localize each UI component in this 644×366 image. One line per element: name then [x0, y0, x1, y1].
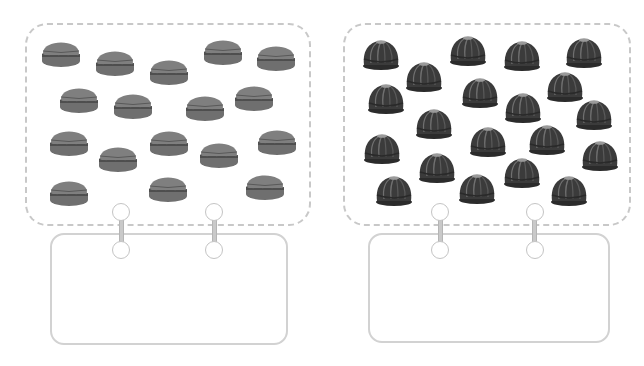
macaron-icon [255, 40, 297, 76]
bundt-cake-icon [448, 33, 488, 71]
macaron-icon [48, 125, 90, 161]
bundt-cake-icon [460, 75, 500, 113]
bundt-cake-icon [564, 35, 604, 73]
bundt-cake-icon [574, 97, 614, 135]
macaron-icon [244, 169, 286, 205]
macaron-icon [148, 54, 190, 90]
macaron-icon [94, 45, 136, 81]
macaron-icon [256, 124, 298, 160]
macaron-icon [40, 36, 82, 72]
macaron-icon [202, 34, 244, 70]
bundt-cake-icon [362, 131, 402, 169]
bundt-cake-icon [417, 150, 457, 188]
bundt-cake-icon [374, 173, 414, 211]
macaron-icon [97, 141, 139, 177]
bundt-cake-icon [502, 155, 542, 193]
binder-ring-icon [431, 241, 449, 259]
bundt-cake-icon [580, 138, 620, 176]
macaron-icon [233, 80, 275, 116]
bundt-cake-icon [457, 171, 497, 209]
binder-ring-icon [205, 241, 223, 259]
macaron-icon [184, 90, 226, 126]
bundt-cake-icon [414, 106, 454, 144]
macaron-icon [198, 137, 240, 173]
bundt-cake-icon [366, 81, 406, 119]
bundt-cake-icon [404, 59, 444, 97]
macaron-icon [147, 171, 189, 207]
macaron-answer-box[interactable] [50, 233, 288, 345]
bundt-cake-icon [361, 37, 401, 75]
bundt-answer-box[interactable] [368, 233, 610, 343]
bundt-cake-icon [549, 173, 589, 211]
binder-ring-icon [526, 203, 544, 221]
bundt-cake-icon [502, 38, 542, 76]
binder-ring-icon [431, 203, 449, 221]
binder-ring-icon [205, 203, 223, 221]
macaron-icon [112, 88, 154, 124]
binder-ring-icon [112, 241, 130, 259]
binder-ring-icon [112, 203, 130, 221]
macaron-icon [58, 82, 100, 118]
macaron-icon [148, 125, 190, 161]
macaron-icon [48, 175, 90, 211]
binder-ring-icon [526, 241, 544, 259]
